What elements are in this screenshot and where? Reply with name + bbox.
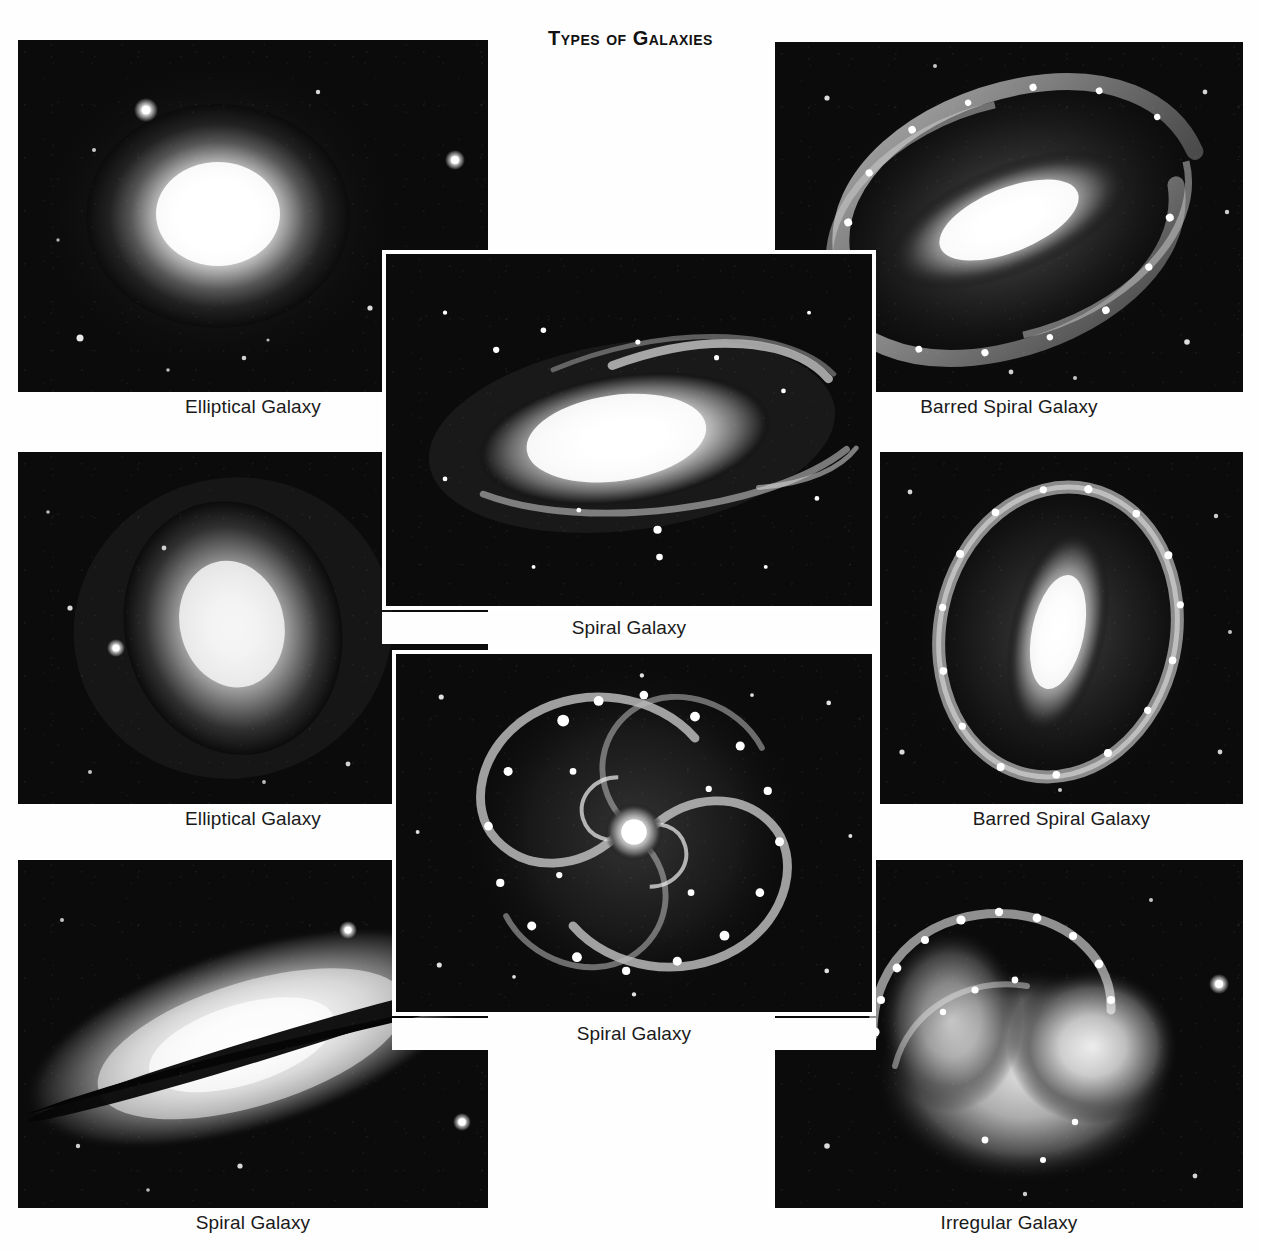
caption-spiral-bottom-left: Spiral Galaxy <box>18 1212 488 1234</box>
caption-spiral-center-top: Spiral Galaxy <box>382 612 876 644</box>
caption-elliptical-top-left: Elliptical Galaxy <box>18 396 488 418</box>
galaxy-panel-spiral-center-bottom <box>392 650 876 1016</box>
film-grain <box>386 254 872 606</box>
caption-barred-spiral-top-right: Barred Spiral Galaxy <box>775 396 1243 418</box>
caption-irregular-bottom-right: Irregular Galaxy <box>775 1212 1243 1234</box>
caption-elliptical-mid-left: Elliptical Galaxy <box>18 808 488 830</box>
film-grain <box>396 654 872 1012</box>
caption-barred-spiral-mid-right: Barred Spiral Galaxy <box>880 808 1243 830</box>
caption-spiral-center-bottom: Spiral Galaxy <box>392 1018 876 1050</box>
galaxy-panel-barred-spiral-mid-right <box>880 452 1243 804</box>
diagram-canvas: Types of Galaxies <box>0 0 1261 1253</box>
galaxy-panel-spiral-center-top <box>382 250 876 610</box>
film-grain <box>880 452 1243 804</box>
